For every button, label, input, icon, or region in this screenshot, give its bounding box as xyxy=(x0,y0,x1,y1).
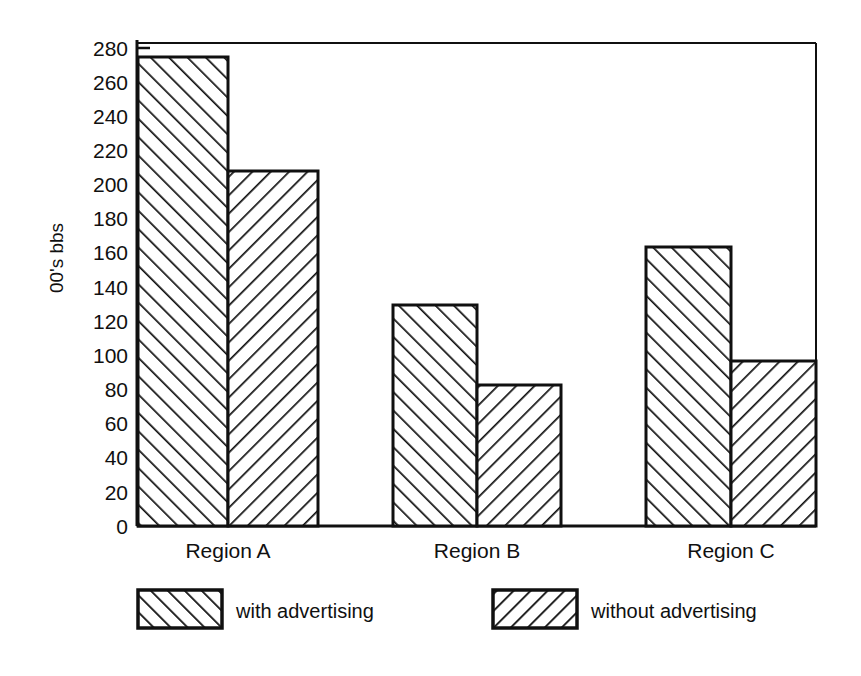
y-tick-label-200: 200 xyxy=(93,173,128,196)
y-tick-label-160: 160 xyxy=(93,241,128,264)
x-label-region-a: Region A xyxy=(185,539,270,562)
y-tick-label-60: 60 xyxy=(105,412,128,435)
y-tick-label-140: 140 xyxy=(93,276,128,299)
bar-region-a-with-advertising xyxy=(138,57,228,526)
y-tick-label-280: 280 xyxy=(93,37,128,60)
legend-swatch-without-advertising xyxy=(493,590,577,628)
y-tick-label-40: 40 xyxy=(105,446,128,469)
y-tick-label-240: 240 xyxy=(93,105,128,128)
x-label-region-c: Region C xyxy=(687,539,775,562)
y-tick-label-100: 100 xyxy=(93,344,128,367)
legend-label-with-advertising: with advertising xyxy=(235,600,374,622)
y-tick-label-0: 0 xyxy=(116,515,128,538)
bar-chart-figure: 280 260 240 220 200 180 160 140 120 100 … xyxy=(0,0,861,676)
y-tick-label-260: 260 xyxy=(93,71,128,94)
bar-region-a-without-advertising xyxy=(228,171,318,526)
x-label-region-b: Region B xyxy=(434,539,520,562)
bar-region-c-without-advertising xyxy=(731,361,816,526)
bar-region-b-without-advertising xyxy=(477,385,561,526)
y-axis-title: 00's bbs xyxy=(46,223,67,293)
legend-swatch-with-advertising xyxy=(138,590,222,628)
y-tick-label-220: 220 xyxy=(93,139,128,162)
y-tick-label-80: 80 xyxy=(105,378,128,401)
chart-canvas: 280 260 240 220 200 180 160 140 120 100 … xyxy=(0,0,861,676)
y-tick-label-180: 180 xyxy=(93,207,128,230)
legend-label-without-advertising: without advertising xyxy=(590,600,757,622)
y-tick-label-20: 20 xyxy=(105,481,128,504)
bar-region-c-with-advertising xyxy=(646,247,731,526)
y-tick-label-120: 120 xyxy=(93,310,128,333)
bar-region-b-with-advertising xyxy=(393,305,477,526)
